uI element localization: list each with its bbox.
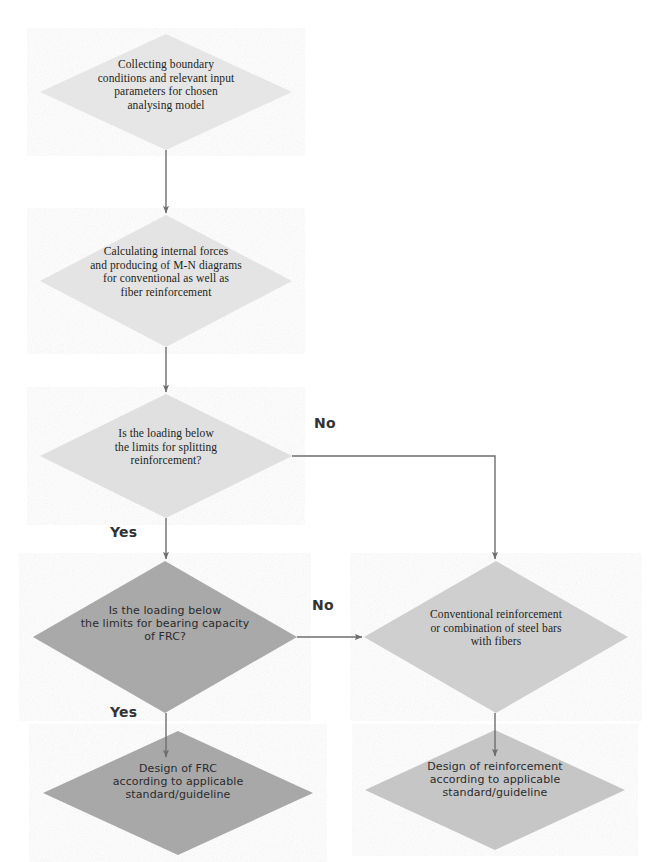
node-conventional-reinforcement xyxy=(364,561,628,713)
edge-label-yes-splitting: Yes xyxy=(110,524,137,540)
connector-n3-to-n5-elbow xyxy=(292,456,495,559)
flowchart-canvas xyxy=(0,0,654,862)
node-decision-bearing-capacity-frc xyxy=(33,561,297,713)
node-collecting-boundary-conditions xyxy=(40,34,292,150)
node-design-of-frc xyxy=(43,731,313,855)
edge-label-no-splitting: No xyxy=(314,415,336,431)
edge-label-no-bearing: No xyxy=(312,597,334,613)
edge-label-yes-bearing: Yes xyxy=(110,704,137,720)
node-calculating-internal-forces xyxy=(40,215,292,347)
node-decision-splitting-reinforcement xyxy=(40,394,292,518)
